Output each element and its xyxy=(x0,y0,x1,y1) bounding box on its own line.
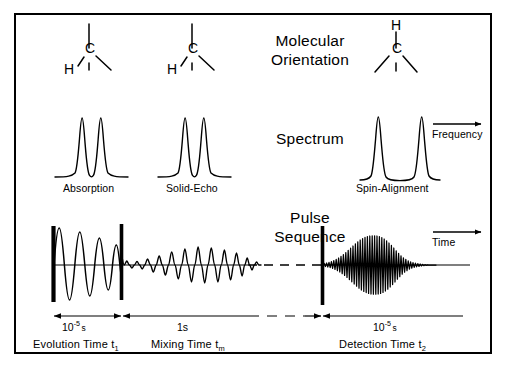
detection-duration-exponent: -5 xyxy=(385,320,391,328)
frequency-axis-label: Frequency xyxy=(432,128,483,140)
molecule-detection-carbon-label: C xyxy=(392,40,402,57)
signal-evolution-fid xyxy=(54,228,122,300)
evolution-period-symbol-sub: 1 xyxy=(114,344,118,353)
molecular-orientation-title-line1: Molecular xyxy=(252,32,368,50)
spectrum-solid-echo-trace xyxy=(158,118,231,177)
nmr-pulse-sequence-figure: C H C H C H Molecular Orientation Spectr… xyxy=(0,0,506,367)
evolution-period-label: Evolution Time t1 xyxy=(33,338,119,354)
spectrum-spin-alignment-caption: Spin-Alignment xyxy=(356,182,429,194)
molecule-mixing-carbon-label: C xyxy=(188,40,198,57)
molecule-detection-hydrogen-label: H xyxy=(391,17,401,34)
detection-period-symbol-sub: 2 xyxy=(422,344,426,353)
evolution-period-name: Evolution Time xyxy=(33,338,108,350)
detection-period-label: Detection Time t2 xyxy=(339,338,426,354)
pulse-sequence-title-line1: Pulse xyxy=(252,209,368,227)
mixing-duration-unit: s xyxy=(183,321,188,333)
evolution-duration-label: 10-5s xyxy=(62,320,86,333)
molecule-evolution-hydrogen-label: H xyxy=(64,61,74,78)
mixing-duration-label: 1s xyxy=(177,320,188,333)
mixing-period-symbol-sub: m xyxy=(218,344,224,353)
time-axis-label: Time xyxy=(432,236,455,248)
detection-period-name: Detection Time xyxy=(339,338,415,350)
evolution-duration-unit: s xyxy=(82,323,86,333)
spectrum-absorption-trace xyxy=(55,118,128,177)
mixing-period-label: Mixing Time tm xyxy=(151,338,225,354)
molecule-mixing-hydrogen-label: H xyxy=(167,61,177,78)
spectrum-absorption-caption: Absorption xyxy=(63,182,114,194)
detection-duration-unit: s xyxy=(393,323,397,333)
detection-duration-label: 10-5s xyxy=(373,320,397,333)
molecular-orientation-title-line2: Orientation xyxy=(252,51,368,69)
pulse-sequence-title-line2: Sequence xyxy=(252,228,368,246)
detection-duration-mantissa: 10 xyxy=(373,321,385,333)
molecule-evolution-carbon-label: C xyxy=(85,40,95,57)
spectrum-solid-echo-caption: Solid-Echo xyxy=(166,182,218,194)
evolution-duration-exponent: -5 xyxy=(74,320,80,328)
evolution-duration-mantissa: 10 xyxy=(62,321,74,333)
spectrum-spin-alignment-trace xyxy=(360,117,440,181)
spectrum-title: Spectrum xyxy=(252,130,368,148)
mixing-period-name: Mixing Time xyxy=(151,338,212,350)
